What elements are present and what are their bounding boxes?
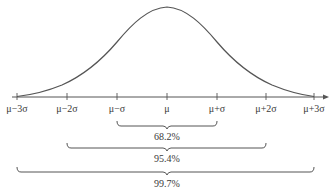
bell-curve bbox=[17, 7, 314, 97]
interval-label: 68.2% bbox=[154, 131, 180, 142]
x-axis-arrowhead-icon bbox=[323, 95, 329, 100]
tick-label: μ−3σ bbox=[6, 103, 28, 114]
tick-label: μ−σ bbox=[109, 103, 126, 114]
tick-label: μ+σ bbox=[209, 103, 226, 114]
tick-label: μ bbox=[164, 103, 169, 114]
tick-label: μ+3σ bbox=[303, 103, 325, 114]
tick-label: μ+2σ bbox=[255, 103, 277, 114]
axis-tick-labels: μ−3σ μ−2σ μ−σ μ μ+σ μ+2σ μ+3σ bbox=[6, 103, 325, 114]
normal-distribution-diagram: μ−3σ μ−2σ μ−σ μ μ+σ μ+2σ μ+3σ 68.2% 95.4… bbox=[0, 0, 331, 195]
bracket-68-percent: 68.2% bbox=[117, 121, 217, 142]
bracket-95-percent: 95.4% bbox=[67, 143, 266, 164]
interval-label: 99.7% bbox=[154, 178, 180, 189]
bracket-99-percent: 99.7% bbox=[17, 167, 314, 189]
tick-label: μ−2σ bbox=[56, 103, 78, 114]
curly-brace-icon bbox=[67, 143, 266, 151]
interval-label: 95.4% bbox=[154, 153, 180, 164]
curly-brace-icon bbox=[17, 167, 314, 175]
curly-brace-icon bbox=[117, 121, 217, 129]
